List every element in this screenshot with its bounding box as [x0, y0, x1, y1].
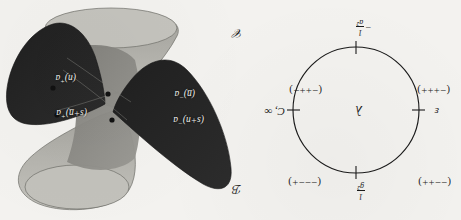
point-a-minus-u — [105, 91, 110, 96]
signature-upper-right: (−−−+) — [288, 177, 321, 188]
signature-lower-left: (−+++) — [417, 85, 450, 96]
label-sup: + — [61, 112, 66, 120]
label-sup: + — [60, 77, 65, 85]
label-a-minus-u: (n̲)−a — [174, 89, 195, 101]
fraction-top: 1 g² — [357, 182, 365, 200]
cone-graphic — [0, 0, 239, 220]
minus-sign: − — [365, 22, 371, 32]
signature-upper-left: (−−++) — [418, 177, 451, 188]
label-a-plus-u-plus-s: (s+n̲)+a — [56, 108, 87, 120]
fraction-bottom-wrap: − 1 a² — [356, 18, 371, 36]
fraction-denominator: a² — [356, 18, 364, 26]
label-base: a — [174, 89, 179, 99]
circle-center-symbol: λ — [356, 103, 363, 118]
circle-right-label: C, ∞ — [264, 106, 285, 117]
circle-top-label: 1 g² — [357, 182, 365, 200]
upper-cone-rim — [25, 165, 129, 209]
fraction-numerator: 1 — [356, 27, 364, 36]
fraction-denominator: g² — [357, 182, 365, 190]
point-a-minus-u-plus-s — [109, 117, 114, 122]
label-base: a — [55, 73, 60, 83]
label-arg: (n̲) — [184, 89, 195, 99]
circle-diagram: 1 g² − 1 a² ε C, ∞ λ (−−++) (−−−+) (−+++… — [239, 0, 461, 220]
circle-left-label: ε — [435, 106, 439, 117]
signature-lower-right: (−++−) — [289, 85, 322, 96]
label-sup: − — [179, 93, 184, 101]
label-a-minus-u-plus-s: (s+n)−a — [173, 115, 204, 127]
label-arg: (n) — [65, 73, 76, 83]
cone-diagram: (s+n)−a (n̲)−a (s+n̲)+a (n)+a ℬ 𝒞 — [0, 0, 239, 220]
figure-plate: 1 g² − 1 a² ε C, ∞ λ (−−++) (−−−+) (−+++… — [0, 0, 461, 220]
fraction-bottom: 1 a² — [356, 18, 364, 36]
fraction-numerator: 1 — [357, 190, 365, 199]
point-a-plus-u — [50, 85, 55, 90]
label-a-plus-u: (n)+a — [55, 73, 76, 85]
corner-label-b: ℬ — [233, 181, 242, 196]
label-sup: − — [178, 119, 183, 127]
label-arg: (s+n̲) — [66, 108, 87, 118]
corner-label-c: 𝒞 — [234, 25, 243, 40]
label-base: a — [173, 115, 178, 125]
label-arg: (s+n) — [183, 115, 204, 125]
label-base: a — [56, 108, 61, 118]
circle-bottom-label: − 1 a² — [356, 18, 371, 37]
